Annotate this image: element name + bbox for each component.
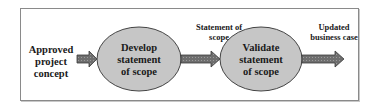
node-label-line: statement xyxy=(99,54,179,66)
input-label-line: concept xyxy=(22,68,80,80)
arrow-develop-to-validate xyxy=(181,51,220,67)
node-label-develop: Develop statement of scope xyxy=(99,42,179,77)
input-label-line: project xyxy=(22,56,80,68)
arrow-validate-to-output xyxy=(302,51,344,67)
node-label-line: Develop xyxy=(99,42,179,54)
edge-label-updated-business-case: Updated business case xyxy=(306,23,362,42)
edge-label-line: scope xyxy=(189,33,249,43)
edge-label-statement-of-scope: Statement of scope xyxy=(189,23,249,42)
input-label-line: Approved xyxy=(22,44,80,56)
node-label-validate: Validate statement of scope xyxy=(221,42,301,77)
node-label-line: Validate xyxy=(221,42,301,54)
edge-label-line: business case xyxy=(306,33,362,43)
node-label-line: statement xyxy=(221,54,301,66)
node-label-line: of scope xyxy=(99,66,179,78)
node-label-line: of scope xyxy=(221,66,301,78)
arrow-input-to-develop xyxy=(77,51,97,67)
input-label-approved-project-concept: Approved project concept xyxy=(22,44,80,79)
